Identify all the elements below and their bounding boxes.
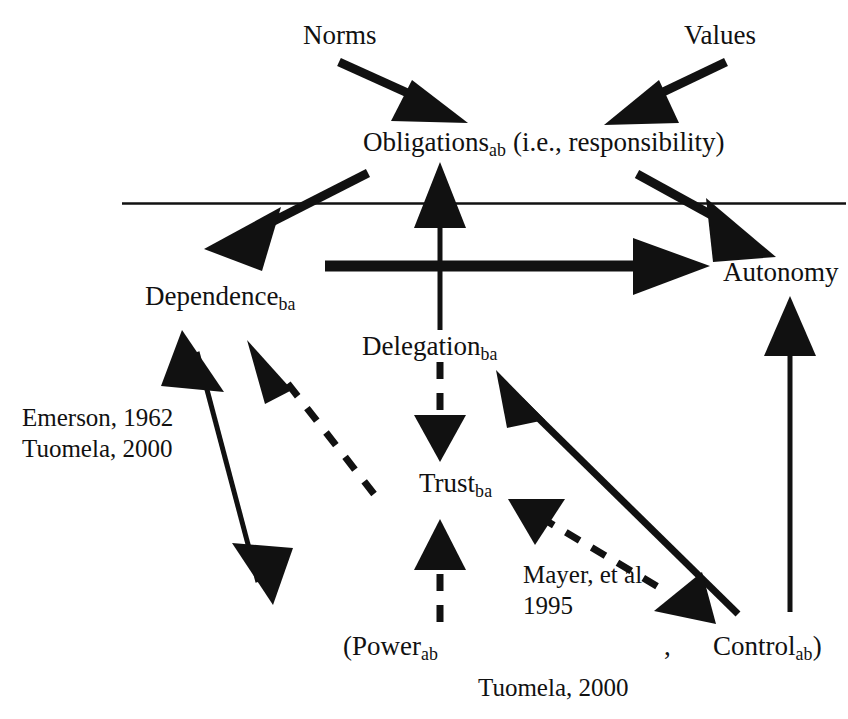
edge-values-to-obligations (604, 62, 726, 125)
node-values-label: Values (684, 20, 756, 50)
node-delegation-subscript: ba (480, 344, 497, 364)
node-control-base: Control (713, 631, 796, 661)
node-obligations-base: Obligations (363, 127, 489, 157)
node-obligations: Obligationsab (i.e., responsibility) (363, 127, 724, 161)
citation-mayer-line2: 1995 (523, 591, 642, 622)
node-obligations-suffix: (i.e., responsibility) (506, 127, 724, 157)
node-trust-subscript: ba (475, 481, 492, 501)
node-norms: Norms (303, 20, 377, 50)
node-obligations-subscript: ab (489, 140, 506, 160)
edge-delegation-to-trust (414, 362, 466, 462)
node-delegation: Delegationba (362, 331, 498, 365)
node-comma-label: , (664, 631, 671, 661)
diagram-canvas: Norms Values Obligationsab (i.e., respon… (0, 0, 848, 719)
citation-mayer: Mayer, et al 1995 (523, 560, 642, 621)
node-delegation-base: Delegation (362, 331, 480, 361)
node-norms-label: Norms (303, 20, 377, 50)
node-power: (Powerab (343, 631, 438, 665)
node-autonomy: Autonomy (723, 257, 839, 287)
node-dependence: Dependenceba (145, 281, 296, 315)
citation-emerson-tuomela: Emerson, 1962 Tuomela, 2000 (22, 403, 173, 464)
edge-power-to-dependence-dashed (247, 340, 374, 494)
citation-mayer-line1: Mayer, et al (523, 560, 642, 591)
node-control: Controlab) (713, 631, 822, 665)
node-comma-separator: , (664, 631, 671, 661)
citation-tuomela-bottom-line1: Tuomela, 2000 (478, 673, 628, 704)
node-trust-base: Trust (419, 468, 475, 498)
node-power-base: (Power (343, 631, 421, 661)
edge-delegation-to-obligations (414, 162, 466, 330)
citation-emerson-line2: Tuomela, 2000 (22, 434, 173, 465)
node-values: Values (684, 20, 756, 50)
node-control-subscript: ab (796, 644, 813, 664)
edge-power-to-trust (414, 519, 466, 622)
edge-control-to-autonomy (764, 296, 816, 612)
node-autonomy-label: Autonomy (723, 257, 839, 287)
node-trust: Trustba (419, 468, 492, 502)
node-dependence-subscript: ba (278, 294, 295, 314)
edge-obligations-to-dependence (204, 173, 368, 271)
citation-tuomela-bottom: Tuomela, 2000 (478, 673, 628, 704)
edge-norms-to-obligations (339, 62, 468, 123)
node-power-subscript: ab (421, 644, 438, 664)
citation-emerson-line1: Emerson, 1962 (22, 403, 173, 434)
edge-dependence-to-autonomy (325, 238, 710, 295)
node-dependence-base: Dependence (145, 281, 278, 311)
node-control-suffix: ) (813, 631, 822, 661)
